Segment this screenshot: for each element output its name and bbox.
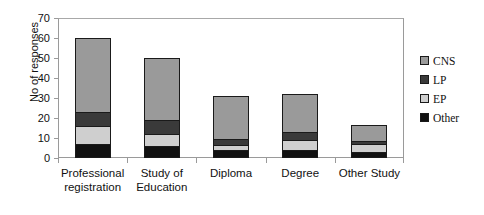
bar-segment-other	[144, 146, 180, 158]
bar-stack	[282, 94, 318, 158]
legend-label: EP	[433, 93, 446, 105]
bar-segment-cns	[351, 125, 387, 141]
bar-segment-lp	[282, 132, 318, 140]
x-axis-label: Other Study	[335, 166, 404, 180]
y-tick-label-70: 70	[38, 13, 50, 24]
x-axis-label: Professionalregistration	[58, 166, 127, 194]
y-tick-label-40: 40	[38, 73, 50, 84]
bar-segment-other	[213, 150, 249, 158]
bar-segment-ep	[75, 126, 111, 144]
bar-group	[282, 18, 318, 158]
x-tickmark	[266, 158, 267, 163]
chart-legend: CNSLPEPOther	[420, 52, 484, 128]
y-tick-label-0: 0	[44, 153, 50, 164]
x-tickmark	[58, 158, 59, 163]
y-tick-label-10: 10	[38, 133, 50, 144]
x-tickmark	[403, 158, 404, 163]
x-axis-label-line: registration	[58, 180, 127, 194]
bar-group	[351, 18, 387, 158]
legend-swatch-icon	[420, 75, 429, 84]
bar-segment-cns	[75, 38, 111, 112]
legend-swatch-icon	[420, 113, 429, 122]
x-axis-labels: ProfessionalregistrationStudy ofEducatio…	[58, 166, 404, 206]
legend-item-other[interactable]: Other	[420, 109, 484, 126]
bar-segment-other	[282, 150, 318, 158]
bar-stack	[351, 125, 387, 158]
x-axis-label: Degree	[266, 166, 335, 180]
bar-segment-ep	[351, 144, 387, 152]
y-tick-label-30: 30	[38, 93, 50, 104]
bar-group	[75, 18, 111, 158]
stacked-bar-chart: No of responses 010203040506070 Professi…	[0, 0, 484, 215]
y-axis-tick-labels: 010203040506070	[0, 0, 58, 215]
bar-stack	[213, 96, 249, 158]
legend-swatch-icon	[420, 56, 429, 65]
bar-segment-other	[75, 144, 111, 158]
x-tickmark	[127, 158, 128, 163]
bar-segment-other	[351, 152, 387, 158]
x-axis-label-line: Degree	[266, 166, 335, 180]
legend-label: CNS	[433, 55, 455, 67]
bar-segment-ep	[282, 140, 318, 150]
x-tickmark	[335, 158, 336, 163]
x-axis-label-line: Diploma	[196, 166, 265, 180]
bar-group	[213, 18, 249, 158]
legend-label: LP	[433, 74, 446, 86]
bar-segment-lp	[75, 112, 111, 126]
y-tick-label-20: 20	[38, 113, 50, 124]
x-axis-label-line: Education	[127, 180, 196, 194]
bar-stack	[75, 38, 111, 158]
legend-swatch-icon	[420, 94, 429, 103]
x-axis-label-line: Professional	[58, 166, 127, 180]
x-tickmark	[196, 158, 197, 163]
x-axis-label-line: Other Study	[335, 166, 404, 180]
legend-label: Other	[433, 112, 459, 124]
legend-item-cns[interactable]: CNS	[420, 52, 484, 69]
x-axis-label: Diploma	[196, 166, 265, 180]
bar-segment-lp	[144, 120, 180, 134]
bar-segment-ep	[144, 134, 180, 146]
y-tick-label-50: 50	[38, 53, 50, 64]
bar-segment-cns	[144, 58, 180, 120]
bar-group	[144, 18, 180, 158]
bar-segment-cns	[282, 94, 318, 132]
y-tick-label-60: 60	[38, 33, 50, 44]
x-axis-label-line: Study of	[127, 166, 196, 180]
bar-stack	[144, 58, 180, 158]
bar-segment-cns	[213, 96, 249, 139]
legend-item-lp[interactable]: LP	[420, 71, 484, 88]
bars-layer	[58, 18, 404, 158]
legend-item-ep[interactable]: EP	[420, 90, 484, 107]
x-axis-label: Study ofEducation	[127, 166, 196, 194]
